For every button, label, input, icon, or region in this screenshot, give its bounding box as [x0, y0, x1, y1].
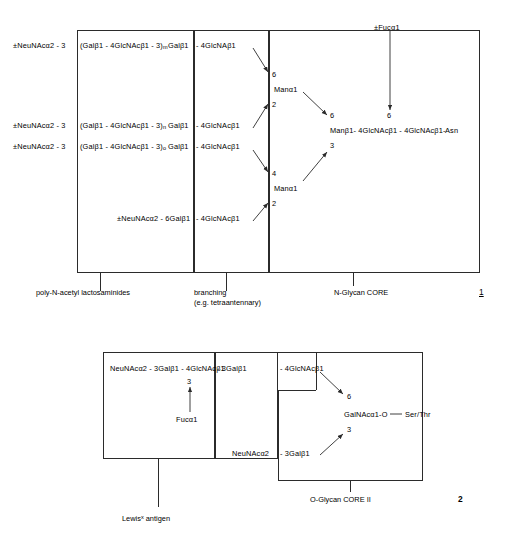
figure-canvas: ±NeuNAcα2 - 3 (Galβ1 - 4GlcNAcβ1 - 3)m G… — [0, 0, 505, 541]
arrow-upper-to-galnac — [320, 372, 343, 394]
arrow-man-lower-to-core — [303, 152, 327, 181]
arrow-lower-to-galnac — [320, 434, 343, 455]
arrow-chain1-to-man — [253, 48, 268, 72]
arrow-chain2-to-man — [253, 104, 268, 128]
connector-lines — [0, 0, 505, 541]
arrow-chain4-to-man — [253, 203, 268, 221]
arrow-man-upper-to-core — [303, 92, 327, 115]
arrow-chain3-to-man — [253, 150, 268, 172]
